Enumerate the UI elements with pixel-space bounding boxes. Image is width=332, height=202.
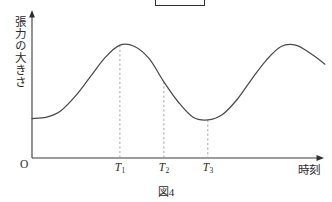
figure-caption: 図4: [0, 183, 332, 199]
figure-container: 張力の大きさ O T1 T2 T3 時刻 図4: [0, 0, 332, 202]
x-tick-t1-symbol: T: [115, 161, 121, 173]
figure-caption-label: 図: [158, 186, 169, 199]
figure-caption-number: 4: [169, 186, 175, 198]
x-tick-t2-symbol: T: [159, 161, 165, 173]
y-axis-label: 張力の大きさ: [4, 16, 26, 88]
y-axis-arrowhead: [29, 10, 35, 18]
x-tick-t2-subscript: 2: [165, 166, 169, 175]
x-tick-t1-subscript: 1: [122, 166, 126, 175]
x-tick-t3-symbol: T: [203, 161, 209, 173]
x-axis-label: 時刻: [298, 161, 320, 177]
origin-label: O: [20, 158, 28, 170]
x-tick-label-t2: T2: [159, 161, 169, 173]
x-tick-label-t3: T3: [203, 161, 213, 173]
x-tick-label-t1: T1: [115, 161, 125, 173]
tension-curve: [32, 44, 325, 120]
x-tick-t3-subscript: 3: [209, 166, 213, 175]
